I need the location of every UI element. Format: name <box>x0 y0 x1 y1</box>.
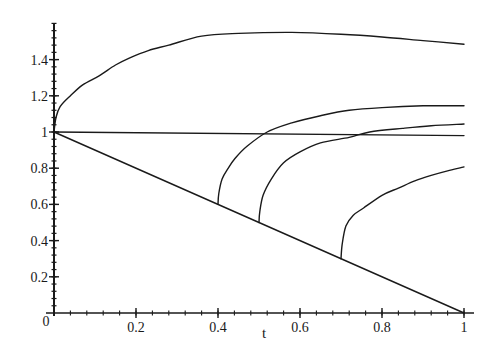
series-branch-t0.7 <box>341 167 464 259</box>
x-tick-label: 1 <box>461 320 468 335</box>
y-tick-label: 0.6 <box>31 197 49 212</box>
x-tick-label: 0.8 <box>373 320 391 335</box>
origin-label: 0 <box>43 314 50 329</box>
y-tick-label: 0.2 <box>31 270 49 285</box>
series-upper-curve <box>54 32 464 132</box>
y-tick-label: 0.8 <box>31 161 49 176</box>
y-tick-label: 0.4 <box>31 234 49 249</box>
line-chart: 0.20.40.60.811.21.40.20.40.60.81 t 0 <box>0 0 502 354</box>
series-branch-t0.5 <box>259 124 464 223</box>
series-branch-t0.4 <box>218 106 464 205</box>
x-axis-label: t <box>262 325 267 341</box>
x-tick-label: 0.6 <box>291 320 309 335</box>
y-tick-label: 1.2 <box>31 89 49 104</box>
x-tick-label: 0.2 <box>127 320 145 335</box>
y-tick-label: 1.4 <box>31 53 49 68</box>
x-tick-label: 0.4 <box>209 320 227 335</box>
series-group <box>54 32 464 313</box>
series-constant-line <box>54 132 464 136</box>
y-tick-label: 1 <box>41 125 48 140</box>
